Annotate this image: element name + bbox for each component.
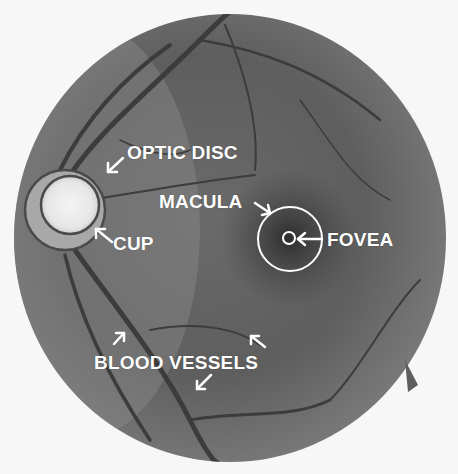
- label-blood-vessels: BLOOD VESSELS: [94, 352, 258, 374]
- optic-disc: [25, 170, 105, 250]
- label-macula: MACULA: [159, 191, 243, 213]
- optic-cup: [41, 176, 99, 234]
- label-fovea: FOVEA: [327, 229, 393, 251]
- label-optic-disc: OPTIC DISC: [127, 142, 238, 164]
- label-cup: CUP: [113, 233, 154, 255]
